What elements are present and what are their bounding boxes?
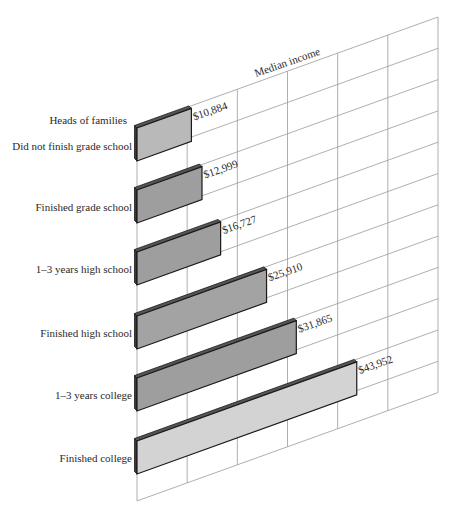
header-label: Heads of families [49, 114, 127, 126]
value-label: $43,952 [356, 353, 394, 376]
category-label: 1–3 years high school [36, 263, 132, 275]
bars-group: $10,884Did not finish grade school$12,99… [12, 99, 394, 474]
value-label: $10,884 [191, 99, 229, 122]
bar-item: $10,884Did not finish grade school [12, 99, 229, 161]
value-label: $25,910 [266, 260, 304, 283]
value-label: $12,999 [202, 157, 240, 180]
category-label: Finished high school [40, 327, 132, 339]
category-label: 1–3 years college [55, 389, 132, 401]
bar-item: $12,999Finished grade school [35, 157, 239, 223]
income-chart: Median income Heads of families $10,884D… [0, 0, 464, 521]
bar-item: $16,7271–3 years high school [36, 212, 259, 285]
category-label: Did not finish grade school [12, 140, 132, 152]
value-label: $16,727 [220, 212, 258, 235]
category-label: Finished college [60, 452, 133, 464]
category-label: Finished grade school [35, 201, 132, 213]
value-label: $31,865 [296, 311, 334, 334]
bar [137, 222, 221, 285]
